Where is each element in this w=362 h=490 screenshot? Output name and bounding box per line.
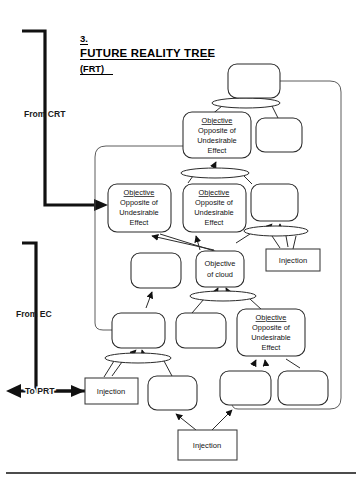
injection-label: Injection: [279, 256, 307, 265]
objective-heading: Objective: [199, 188, 230, 197]
objective-line-2: Opposite of: [252, 323, 291, 332]
injection-box-left[interactable]: Injection: [85, 378, 138, 404]
objective-line-3: Undesirable: [197, 136, 236, 145]
injection-label: Injection: [193, 441, 221, 450]
and-connector: [105, 353, 171, 363]
injection-label: Injection: [97, 387, 125, 396]
injection-box-right[interactable]: Injection: [266, 249, 320, 271]
arrowhead-from-crt: [94, 199, 108, 211]
label-from-crt: From CRT: [24, 109, 66, 119]
objective-line-2: Opposite of: [195, 198, 234, 207]
objective-node-2[interactable]: Objective Opposite of Undesirable Effect: [108, 184, 171, 232]
objective-node-3[interactable]: Objective Opposite of Undesirable Effect: [183, 184, 246, 232]
objective-line-2: Opposite of: [198, 126, 237, 135]
page-title: 3. FUTURE REALITY TREE (FRT): [80, 33, 215, 75]
and-connector: [190, 291, 256, 301]
label-from-ec: From EC: [16, 309, 52, 319]
objective-line-4: Effect: [208, 146, 227, 155]
entity-node-right-1[interactable]: [256, 118, 302, 152]
arrowhead-to-prt: [6, 384, 21, 398]
and-connector: [212, 98, 280, 108]
objective-heading: Objective: [202, 116, 233, 125]
objective-line-2: Opposite of: [120, 198, 159, 207]
entity-node-mid-left[interactable]: [131, 253, 181, 288]
objective-node-4[interactable]: Objective Opposite of Undesirable Effect: [237, 309, 305, 356]
objective-line-4: Effect: [130, 218, 149, 227]
objective-line-3: Undesirable: [251, 333, 290, 342]
external-flow-from-ec: From EC: [16, 243, 85, 397]
cloud-line-2: of cloud: [207, 270, 233, 279]
title-main: FUTURE REALITY TREE: [80, 47, 215, 59]
title-abbrev: (FRT): [80, 64, 104, 74]
and-connector: [244, 226, 308, 236]
frt-diagram-page: 3. FUTURE REALITY TREE (FRT) From CRT Fr…: [0, 0, 362, 490]
entity-node-right-2[interactable]: [251, 184, 298, 221]
and-connector: [181, 168, 249, 178]
objective-of-cloud-node[interactable]: Objective of cloud: [196, 251, 244, 287]
entity-node-bottom-mid[interactable]: [220, 371, 271, 405]
entity-node-top[interactable]: [228, 64, 280, 98]
objective-line-4: Effect: [262, 343, 281, 352]
injection-box-bottom[interactable]: Injection: [178, 430, 237, 460]
entity-node-bottom-left[interactable]: [148, 376, 197, 410]
objective-line-4: Effect: [205, 218, 224, 227]
entity-node-bottom-right[interactable]: [278, 371, 328, 405]
label-to-prt: To PRT: [25, 386, 55, 396]
entity-node-low-left[interactable]: [112, 313, 165, 348]
cloud-line-1: Objective: [205, 259, 236, 268]
future-reality-tree-svg: 3. FUTURE REALITY TREE (FRT) From CRT Fr…: [0, 0, 362, 490]
entity-node-low-mid[interactable]: [176, 313, 226, 348]
objective-heading: Objective: [124, 188, 155, 197]
objective-line-3: Undesirable: [119, 208, 158, 217]
title-number: 3.: [80, 33, 88, 44]
objective-node-1[interactable]: Objective Opposite of Undesirable Effect: [183, 112, 251, 158]
objective-line-3: Undesirable: [194, 208, 233, 217]
objective-heading: Objective: [256, 313, 287, 322]
